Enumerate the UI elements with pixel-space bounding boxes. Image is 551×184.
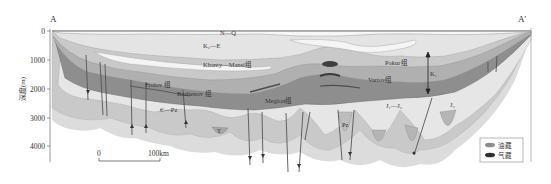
label-frolov: Frolov 组: [145, 80, 171, 88]
scale-bar: [99, 158, 160, 161]
label-megion: Megion组: [265, 96, 292, 104]
y-tick-2000: 2000: [30, 85, 45, 94]
y-axis: [47, 29, 50, 162]
label-j3: J₃: [450, 101, 455, 108]
label-paleozoic: Є—Pz: [160, 106, 177, 113]
legend-gas-label: 气藏: [498, 151, 512, 160]
label-j1-j2: J₁—J₂: [386, 102, 402, 109]
arrow-icon: [261, 154, 265, 158]
geological-cross-section: 0 1000 2000 3000 4000 深度(m) A A' N—Q K₂—…: [0, 0, 551, 184]
arrow-icon: [297, 164, 301, 168]
section-end-label: A': [518, 14, 526, 24]
gas-pocket: [322, 61, 338, 67]
y-tick-1000: 1000: [30, 56, 45, 65]
arrow-icon: [248, 156, 252, 160]
scale-bar-start: 0: [97, 149, 101, 158]
well-marker: [413, 152, 416, 155]
y-axis-label: 深度(m): [18, 76, 27, 101]
label-pz: Pz: [342, 121, 349, 128]
oil-reservoir-swatch: [485, 143, 495, 148]
label-bazhenov: Bazhenov 组: [177, 89, 212, 97]
y-tick-0: 0: [41, 27, 45, 36]
label-pokur: Pokur组: [385, 58, 408, 66]
label-t: T: [217, 127, 221, 134]
legend-oil-label: 油藏: [498, 141, 512, 150]
y-tick-4000: 4000: [30, 142, 45, 151]
label-vartov: Vartov组: [368, 75, 392, 83]
label-k2-e: K₂—E: [203, 42, 220, 49]
label-khanty-mansi: Khanty—Mansi组: [203, 60, 252, 68]
label-k1: K₁: [430, 70, 437, 77]
gas-reservoir-swatch: [485, 153, 495, 158]
legend: 油藏 气藏: [480, 138, 523, 162]
section-start-label: A: [50, 14, 57, 24]
scale-bar-end: 100km: [148, 149, 169, 158]
y-tick-3000: 3000: [30, 114, 45, 123]
label-n-q: N—Q: [220, 29, 236, 36]
